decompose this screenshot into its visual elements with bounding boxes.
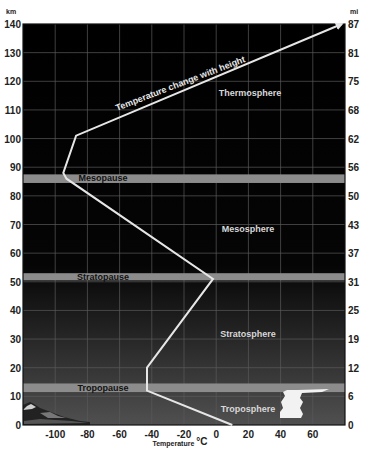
y-tick-km: 120 — [4, 76, 21, 87]
layer-label-thermosphere: Thermosphere — [219, 88, 282, 98]
y-tick-mi: 87 — [348, 19, 360, 30]
x-tick: 20 — [243, 429, 255, 440]
x-axis-ticks: -100-80-60-40-200204060 — [45, 429, 319, 440]
pause-label-tropopause: Tropopause — [77, 383, 128, 393]
x-tick: -80 — [80, 429, 95, 440]
y-tick-km: 20 — [10, 363, 22, 374]
y-tick-mi: 43 — [348, 220, 360, 231]
y-axis-unit-km: km — [6, 8, 16, 15]
y-tick-km: 60 — [10, 248, 22, 259]
y-tick-mi: 12 — [348, 363, 360, 374]
y-tick-mi: 25 — [348, 305, 360, 316]
x-axis-unit: °C — [196, 436, 207, 447]
x-tick: -100 — [45, 429, 65, 440]
layer-label-troposphere: Troposphere — [221, 404, 276, 414]
y-tick-mi: 6 — [348, 391, 354, 402]
layer-label-stratosphere: Stratosphere — [220, 329, 276, 339]
layer-label-mesosphere: Mesosphere — [222, 224, 275, 234]
y-tick-mi: 37 — [348, 248, 360, 259]
y-tick-mi: 68 — [348, 105, 360, 116]
y-tick-mi: 0 — [348, 420, 354, 431]
y-axis-mi-ticks: 0612192531374350566268758187 — [348, 19, 360, 431]
x-tick: -60 — [112, 429, 127, 440]
y-axis-km-ticks: 0102030405060708090100110120130140 — [4, 19, 21, 431]
y-tick-km: 40 — [10, 305, 22, 316]
y-tick-km: 80 — [10, 191, 22, 202]
y-tick-mi: 56 — [348, 162, 360, 173]
y-tick-km: 10 — [10, 391, 22, 402]
y-tick-mi: 19 — [348, 334, 360, 345]
y-tick-mi: 75 — [348, 76, 360, 87]
y-tick-km: 90 — [10, 162, 22, 173]
y-tick-mi: 50 — [348, 191, 360, 202]
x-tick: 60 — [307, 429, 319, 440]
x-tick: -40 — [145, 429, 160, 440]
y-tick-mi: 62 — [348, 134, 360, 145]
pause-label-mesopause: Mesopause — [78, 173, 127, 183]
pause-band — [23, 273, 345, 280]
y-tick-km: 70 — [10, 220, 22, 231]
y-tick-km: 0 — [15, 420, 21, 431]
atmosphere-temperature-chart: Temperature change with height Thermosph… — [0, 0, 368, 451]
x-tick: -20 — [177, 429, 192, 440]
y-tick-mi: 31 — [348, 277, 360, 288]
y-tick-mi: 81 — [348, 48, 360, 59]
x-axis-label-text: Temperature — [152, 440, 194, 448]
x-tick: 40 — [275, 429, 287, 440]
pause-label-stratopause: Stratopause — [77, 272, 129, 282]
y-axis-unit-mi: mi — [350, 8, 358, 15]
y-tick-km: 130 — [4, 48, 21, 59]
y-tick-km: 100 — [4, 134, 21, 145]
y-tick-km: 30 — [10, 334, 22, 345]
x-tick: 0 — [213, 429, 219, 440]
y-tick-km: 50 — [10, 277, 22, 288]
y-tick-km: 110 — [5, 105, 22, 116]
y-tick-km: 140 — [4, 19, 21, 30]
